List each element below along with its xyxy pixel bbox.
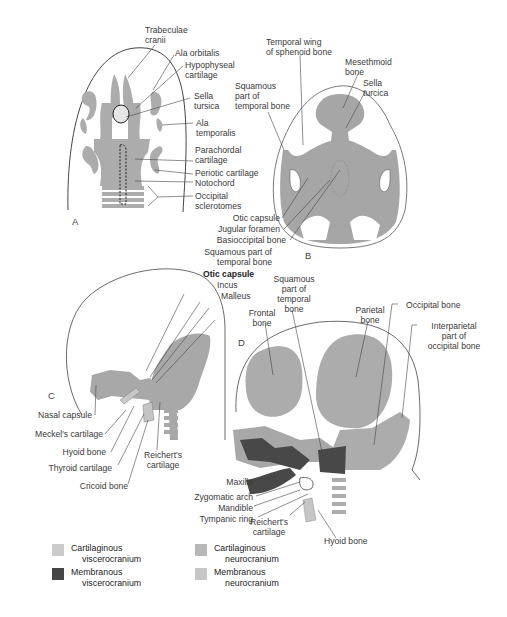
panel-c-letter: C: [48, 390, 55, 401]
label-zygomatic-arch: Zygomatic arch: [150, 492, 253, 502]
legend-label-line2: neurocranium: [214, 554, 279, 565]
label-occipital-bone: Occipital bone: [406, 300, 460, 310]
label-reicherts-cartilage-d: Reichert's cartilage: [244, 517, 294, 537]
label-maxilla: Maxilla: [170, 477, 253, 487]
legend-label-line2: viscerocranium: [71, 554, 141, 565]
label-temporal-wing-sphenoid: Temporal wing of sphenoid bone: [266, 37, 332, 57]
label-ala-temporalis: Ala temporalis: [196, 118, 236, 138]
label-otic-capsule-c: Otic capsule: [203, 269, 254, 279]
label-malleus: Malleus: [221, 291, 251, 301]
legend-label-line2: viscerocranium: [71, 578, 141, 589]
label-interparietal-occipital: Interparietal part of occipital bone: [420, 321, 488, 351]
label-thyroid-cartilage: Thyroid cartilage: [20, 463, 112, 473]
label-cricoid-bone: Cricoid bone: [50, 481, 128, 491]
label-tympanic-ring: Tympanic ring: [150, 514, 253, 524]
panel-d-letter: D: [238, 337, 245, 348]
label-hypophyseal-cartilage: Hypophyseal cartilage: [185, 60, 235, 80]
legend-membranous-viscerocranium: Membranousviscerocranium: [52, 567, 141, 589]
label-trabeculae-cranii: Trabeculae cranii: [145, 25, 188, 45]
label-incus: Incus: [217, 280, 238, 290]
legend-swatch: [52, 568, 64, 580]
label-reicherts-cartilage-c: Reichert's cartilage: [138, 450, 188, 470]
label-squamous-temporal-c: Squamous part of temporal bone: [160, 247, 272, 267]
label-periotic-cartilage: Periotic cartilage: [195, 168, 259, 178]
legend-swatch: [195, 544, 207, 556]
label-parietal-bone: Parietal bone: [350, 305, 390, 325]
legend-label-line2: neurocranium: [214, 578, 279, 589]
label-nasal-capsule: Nasal capsule: [20, 410, 92, 420]
label-jugular-foramen: Jugular foramen: [190, 224, 280, 234]
label-basioccipital-bone: Basioccipital bone: [180, 235, 286, 245]
label-mesethmoid-bone: Mesethmoid bone: [345, 57, 392, 77]
legend-swatch: [52, 544, 64, 556]
legend-label: Membranous: [214, 567, 279, 578]
label-hyoid-bone-d: Hyoid bone: [324, 536, 367, 546]
label-mandible: Mandible: [170, 503, 253, 513]
label-hyoid-bone-c: Hyoid bone: [40, 447, 106, 457]
label-frontal-bone: Frontal bone: [242, 308, 282, 328]
label-parachordal-cartilage: Parachordal cartilage: [195, 145, 241, 165]
label-occipital-sclerotomes: Occipital sclerotomes: [195, 191, 241, 211]
panel-a-drawing: [68, 45, 193, 212]
legend-label: Cartilaginous: [214, 543, 279, 554]
legend-cartilaginous-neurocranium: Cartilaginousneurocranium: [195, 543, 279, 565]
panel-b-letter: B: [305, 250, 311, 261]
label-meckels-cartilage: Meckel's cartilage: [10, 429, 103, 439]
label-squamous-temporal-b: Squamous part of temporal bone: [235, 81, 290, 111]
label-ala-orbitalis: Ala orbitalis: [175, 48, 219, 58]
legend-cartilaginous-viscerocranium: Cartilaginousviscerocranium: [52, 543, 141, 565]
label-notochord: Notochord: [195, 178, 235, 188]
legend-membranous-neurocranium: Membranousneurocranium: [195, 567, 279, 589]
panel-d-drawing: [233, 304, 420, 538]
panel-a-letter: A: [72, 216, 78, 227]
legend-label: Cartilaginous: [71, 543, 141, 554]
legend-label: Membranous: [71, 567, 141, 578]
label-sella-tursica: Sella tursica: [194, 91, 219, 111]
label-sella-turcica: Sella turcica: [363, 78, 388, 98]
legend-swatch: [195, 568, 207, 580]
label-otic-capsule-b: Otic capsule: [200, 213, 280, 223]
